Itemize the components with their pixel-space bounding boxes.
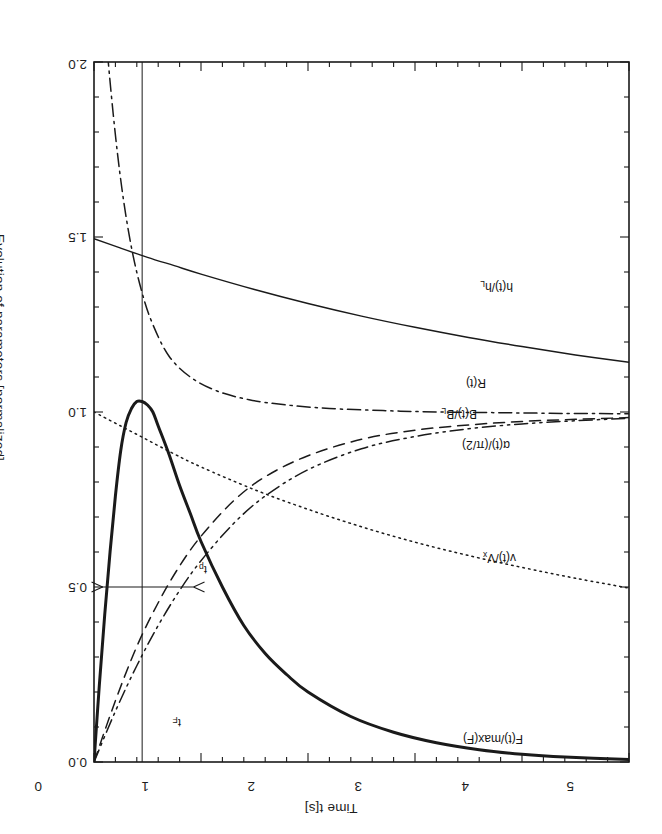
- series-1: [94, 412, 629, 588]
- figure-page: Time t[s] Evolution of parameters [norma…: [0, 0, 662, 834]
- plot-canvas: [0, 0, 662, 834]
- rotated-figure-wrapper: Time t[s] Evolution of parameters [norma…: [0, 0, 662, 834]
- chart-figure: Time t[s] Evolution of parameters [norma…: [0, 0, 662, 834]
- series-5: [94, 239, 629, 363]
- series-0: [94, 401, 629, 762]
